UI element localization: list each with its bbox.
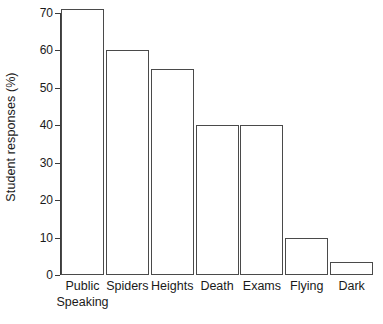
y-axis-tick-mark xyxy=(55,238,60,239)
y-axis-tick-mark xyxy=(55,125,60,126)
y-axis-tick-mark xyxy=(55,275,60,276)
y-axis-tick-mark xyxy=(55,200,60,201)
bar-slot xyxy=(240,13,283,275)
y-axis-tick-mark xyxy=(55,88,60,89)
bar-slot xyxy=(196,13,239,275)
bar xyxy=(106,50,149,275)
plot-area xyxy=(61,13,375,275)
bar xyxy=(240,125,283,275)
bar-slot xyxy=(330,13,373,275)
x-axis-label-line: Dark xyxy=(325,278,378,294)
x-axis-labels: PublicSpeakingSpidersHeightsDeathExamsFl… xyxy=(61,278,375,324)
y-axis-tick-label: 10 xyxy=(40,230,53,246)
bar xyxy=(285,238,328,275)
y-axis: 010203040506070 xyxy=(22,0,62,324)
bar-slot xyxy=(151,13,194,275)
y-axis-tick-label: 0 xyxy=(46,267,53,283)
bar xyxy=(61,9,104,275)
x-axis-tick-label: Dark xyxy=(325,278,378,294)
bar xyxy=(196,125,239,275)
bar-slot xyxy=(285,13,328,275)
y-axis-title: Student responses (%) xyxy=(0,0,22,274)
y-axis-tick-label: 30 xyxy=(40,155,53,171)
bar-chart: Student responses (%) 010203040506070 Pu… xyxy=(0,0,383,324)
y-axis-tick-mark xyxy=(55,50,60,51)
y-axis-tick-label: 20 xyxy=(40,192,53,208)
bar xyxy=(151,69,194,275)
y-axis-tick-label: 70 xyxy=(40,5,53,21)
bar-slot xyxy=(61,13,104,275)
y-axis-tick-label: 60 xyxy=(40,42,53,58)
y-axis-tick-label: 50 xyxy=(40,80,53,96)
x-axis-label-line: Speaking xyxy=(56,294,109,310)
y-axis-tick-mark xyxy=(55,13,60,14)
y-axis-tick-label: 40 xyxy=(40,117,53,133)
y-axis-tick-mark xyxy=(55,163,60,164)
bar-slot xyxy=(106,13,149,275)
bar xyxy=(330,262,373,275)
